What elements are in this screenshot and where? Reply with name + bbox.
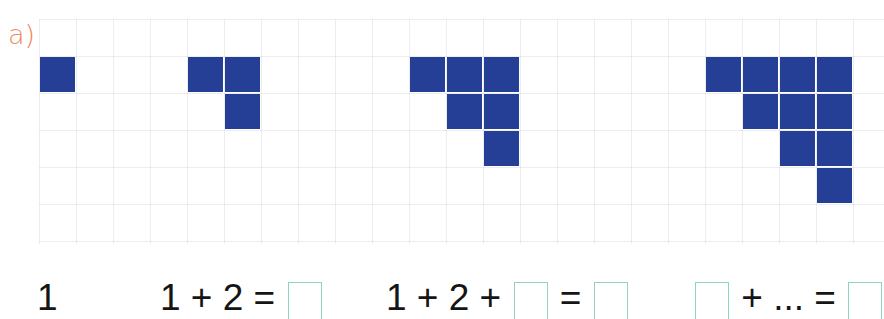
exercise-label: a) [8,21,35,48]
filled-square [780,94,816,130]
formula-1-text: 1 [37,279,58,316]
filled-square [817,168,853,204]
formula-2-lhs: 1 + 2 = [160,279,286,316]
filled-square [447,57,483,93]
answer-box-sum-3[interactable] [594,282,628,319]
answer-box-sum-2[interactable] [288,282,322,319]
filled-square [484,94,520,130]
formula-3-equals: = [550,279,592,316]
filled-square [225,57,261,93]
filled-square [484,57,520,93]
answer-box-sum-4[interactable] [848,282,882,319]
filled-square [706,57,742,93]
filled-square [484,131,520,167]
filled-square [817,57,853,93]
answer-box-term-4[interactable] [695,282,729,319]
answer-box-term-3[interactable] [514,282,548,319]
formula-3-lhs: 1 + 2 + [386,279,512,316]
square-grid [39,19,884,244]
filled-square [743,94,779,130]
filled-square [410,57,446,93]
filled-square [817,94,853,130]
formula-4: + ... = [693,276,884,316]
formula-2: 1 + 2 = [160,276,324,316]
filled-square [780,131,816,167]
filled-square [780,57,816,93]
filled-square [447,94,483,130]
formula-3: 1 + 2 + = [386,276,630,316]
formula-1: 1 [37,276,58,316]
filled-square [225,94,261,130]
filled-square [188,57,224,93]
filled-square [817,131,853,167]
formula-4-middle: + ... = [731,279,846,316]
filled-square [40,57,76,93]
filled-square [743,57,779,93]
